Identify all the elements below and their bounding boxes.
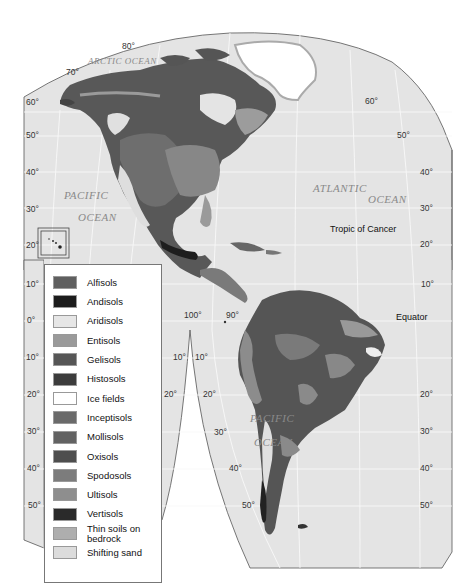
svg-text:10°: 10° [195, 352, 208, 362]
atlantic-label-2: OCEAN [368, 193, 407, 205]
legend-item-gelisols: Gelisols [53, 350, 161, 369]
equator-label: Equator [396, 312, 428, 322]
svg-text:20°: 20° [420, 239, 433, 249]
legend-item-entisols: Entisols [53, 331, 161, 350]
lon-90-label: 90° [226, 310, 239, 320]
svg-text:50°: 50° [420, 500, 433, 510]
svg-text:20°: 20° [164, 389, 177, 399]
svg-text:50°: 50° [28, 500, 41, 510]
legend-item-ultisols: Ultisols [53, 485, 161, 504]
legend-item-shifting-sand: Shifting sand [53, 543, 161, 562]
swatch [53, 392, 77, 405]
svg-text:10°: 10° [26, 279, 39, 289]
swatch [53, 508, 77, 521]
galapagos [224, 321, 226, 323]
svg-text:60°: 60° [365, 96, 378, 106]
svg-text:10°: 10° [421, 279, 434, 289]
pacific-south-label-2: OCEAN [254, 436, 293, 448]
legend-item-vertisols: Vertisols [53, 505, 161, 524]
pacific-north-label-2: OCEAN [78, 211, 117, 223]
swatch [53, 546, 77, 559]
svg-text:30°: 30° [26, 204, 39, 214]
svg-text:40°: 40° [27, 463, 40, 473]
swatch [53, 353, 77, 366]
legend-label: Mollisols [87, 432, 123, 442]
swatch [53, 411, 77, 424]
legend-label: Oxisols [87, 452, 118, 462]
pacific-south-label-1: PACIFIC [249, 412, 294, 424]
atlantic-label-1: ATLANTIC [312, 182, 367, 194]
swatch [53, 373, 77, 386]
swatch [53, 276, 77, 289]
legend-item-aridisols: Aridisols [53, 312, 161, 331]
legend-label: Histosols [87, 374, 126, 384]
swatch [53, 295, 77, 308]
legend-item-inceptisols: Inceptisols [53, 408, 161, 427]
lon-100-label: 100° [184, 310, 202, 320]
svg-text:30°: 30° [214, 427, 227, 437]
svg-text:30°: 30° [420, 426, 433, 436]
svg-text:50°: 50° [26, 130, 39, 140]
legend-item-histosols: Histosols [53, 369, 161, 388]
legend-label: Ultisols [87, 490, 118, 500]
legend-item-oxisols: Oxisols [53, 447, 161, 466]
lat-80-label: 80° [122, 41, 135, 51]
legend-label: Andisols [87, 297, 123, 307]
legend-label: Inceptisols [87, 413, 132, 423]
swatch [53, 527, 77, 540]
legend-label: Entisols [87, 336, 120, 346]
legend-label: Alfisols [87, 278, 117, 288]
svg-text:30°: 30° [420, 203, 433, 213]
svg-text:10°: 10° [173, 352, 186, 362]
legend-item-alfisols: Alfisols [53, 273, 161, 292]
svg-text:30°: 30° [27, 426, 40, 436]
swatch [53, 315, 77, 328]
pacific-north-label-1: PACIFIC [63, 189, 108, 201]
tropic-of-cancer-label: Tropic of Cancer [330, 224, 396, 234]
svg-text:40°: 40° [229, 463, 242, 473]
svg-text:20°: 20° [26, 240, 39, 250]
legend-label: Gelisols [87, 355, 121, 365]
svg-text:20°: 20° [420, 389, 433, 399]
swatch [53, 469, 77, 482]
legend-item-andisols: Andisols [53, 292, 161, 311]
svg-text:20°: 20° [27, 389, 40, 399]
legend-label: Thin soils on bedrock [87, 524, 157, 543]
svg-text:40°: 40° [26, 167, 39, 177]
legend-label: Shifting sand [87, 548, 142, 558]
svg-text:10°: 10° [26, 352, 39, 362]
svg-text:40°: 40° [420, 167, 433, 177]
legend-label: Aridisols [87, 316, 123, 326]
swatch [53, 431, 77, 444]
arctic-ocean-label: ARCTIC OCEAN [87, 56, 157, 66]
svg-text:50°: 50° [242, 500, 255, 510]
legend-label: Vertisols [87, 509, 123, 519]
swatch [53, 488, 77, 501]
legend-label: Ice fields [87, 394, 125, 404]
swatch [53, 334, 77, 347]
north-map-frame [24, 33, 452, 270]
legend-item-ice-fields: Ice fields [53, 389, 161, 408]
legend-item-thin-soils: Thin soils on bedrock [53, 524, 161, 543]
svg-text:20°: 20° [203, 389, 216, 399]
svg-text:0°: 0° [27, 315, 35, 325]
legend-item-mollisols: Mollisols [53, 427, 161, 446]
legend: Alfisols Andisols Aridisols Entisols Gel… [44, 264, 162, 583]
legend-label: Spodosols [87, 471, 131, 481]
svg-text:40°: 40° [420, 463, 433, 473]
legend-item-spodosols: Spodosols [53, 466, 161, 485]
lat-70-label: 70° [66, 67, 79, 77]
svg-text:60°: 60° [26, 97, 39, 107]
swatch [53, 450, 77, 463]
svg-text:50°: 50° [397, 130, 410, 140]
